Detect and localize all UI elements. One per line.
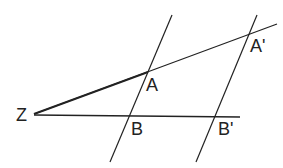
transversal-a-prime-b-prime [196,15,257,162]
transversal-a-b [110,15,172,162]
label-z: Z [16,106,27,124]
label-b: B [131,120,143,138]
label-b-prime: B' [218,120,233,138]
line-z-b-prime [34,115,240,117]
label-a: A [146,76,158,94]
diagram: Z A A' B B' [0,0,283,168]
figure-lines [0,0,283,168]
label-a-prime: A' [250,37,265,55]
segment-z-a-bold [34,72,148,114]
